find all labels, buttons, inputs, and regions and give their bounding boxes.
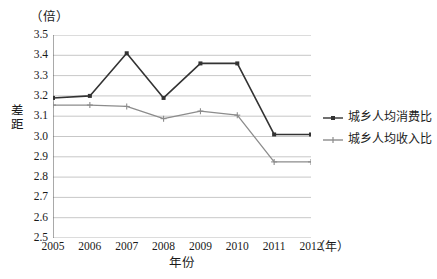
- x-axis-unit-label: （年）: [313, 241, 349, 253]
- legend-item-label: 城乡人均收入比: [348, 129, 432, 147]
- data-point-marker: [309, 132, 311, 136]
- data-point-marker: [197, 108, 203, 114]
- x-axis-tick-label: 2006: [78, 241, 101, 253]
- y-axis-tick-label: 3.0: [34, 131, 48, 143]
- x-axis-tick-label: 2008: [152, 241, 175, 253]
- data-point-marker: [162, 96, 166, 100]
- x-axis-title: 年份: [169, 257, 195, 270]
- y-axis-tick-label: 2.9: [34, 151, 48, 163]
- y-axis-tick-label: 2.8: [34, 171, 48, 183]
- legend-marker-square-icon: [322, 110, 344, 122]
- y-axis-tick-label: 2.6: [34, 212, 48, 224]
- x-axis-tick-labels: 20052006200720082009201020112012: [0, 241, 437, 257]
- data-point-marker: [53, 102, 56, 108]
- chart-svg: [53, 35, 311, 238]
- data-point-marker: [125, 51, 129, 55]
- data-point-marker: [87, 102, 93, 108]
- y-axis-tick-label: 2.7: [34, 191, 48, 203]
- data-point-marker: [198, 61, 202, 65]
- data-point-marker: [235, 61, 239, 65]
- x-axis-tick-label: 2009: [189, 241, 212, 253]
- plot-area: [53, 35, 311, 238]
- data-point-marker: [53, 96, 55, 100]
- y-axis-title: 差距: [9, 104, 22, 132]
- legend-item[interactable]: 城乡人均消费比: [322, 105, 437, 127]
- data-point-marker: [308, 159, 311, 165]
- x-axis-tick-label: 2011: [263, 241, 286, 253]
- y-axis-tick-label: 3.1: [34, 110, 48, 122]
- series-line: [53, 53, 311, 134]
- y-axis-tick-label: 3.5: [34, 29, 48, 41]
- y-axis-tick-label: 3.4: [34, 49, 48, 61]
- y-axis-tick-labels: 3.53.43.33.23.13.02.92.82.72.62.5: [22, 0, 48, 279]
- x-axis-tick-label: 2010: [226, 241, 249, 253]
- x-axis-tick-label: 2005: [42, 241, 65, 253]
- data-point-marker: [88, 94, 92, 98]
- legend-item[interactable]: 城乡人均收入比: [322, 127, 437, 149]
- y-axis-tick-label: 3.3: [34, 70, 48, 82]
- legend-marker-cross-icon: [322, 132, 344, 144]
- legend-item-label: 城乡人均消费比: [348, 107, 432, 125]
- data-point-marker: [272, 132, 276, 136]
- chart-container: （倍） 差距 3.53.43.33.23.13.02.92.82.72.62.5…: [0, 0, 437, 279]
- x-axis-tick-label: 2007: [115, 241, 138, 253]
- data-point-marker: [124, 103, 130, 109]
- y-axis-tick-label: 3.2: [34, 90, 48, 102]
- chart-legend: 城乡人均消费比城乡人均收入比: [322, 105, 437, 149]
